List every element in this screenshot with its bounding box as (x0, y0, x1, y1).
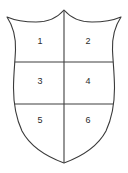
cell-label-5: 5 (33, 116, 47, 125)
shield-diagram: 1 2 3 4 5 6 (0, 0, 128, 173)
cell-label-1: 1 (33, 37, 47, 46)
cell-label-4: 4 (81, 77, 95, 86)
cell-label-2: 2 (81, 37, 95, 46)
cell-label-6: 6 (81, 116, 95, 125)
shield-outline-graphic (0, 0, 128, 173)
cell-label-3: 3 (33, 77, 47, 86)
